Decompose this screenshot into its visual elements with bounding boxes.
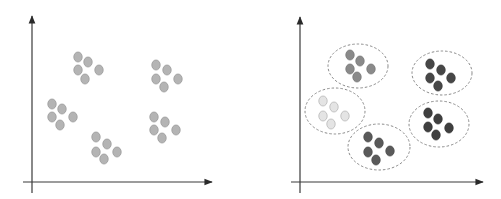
data-point: [48, 99, 56, 109]
data-point: [84, 57, 92, 67]
data-point: [445, 123, 453, 133]
data-point: [356, 56, 364, 66]
clustering-diagram: [0, 0, 501, 199]
data-point: [346, 64, 354, 74]
data-point: [172, 125, 180, 135]
data-point: [113, 147, 121, 157]
left-panel-unclustered: [23, 16, 212, 193]
point-group: [48, 99, 77, 130]
data-point: [152, 74, 160, 84]
point-group: [74, 52, 103, 84]
data-point: [158, 133, 166, 143]
data-point: [95, 65, 103, 75]
cluster: [412, 51, 472, 95]
cluster: [409, 101, 469, 147]
data-point: [69, 112, 77, 122]
data-point: [386, 146, 394, 156]
data-point: [74, 65, 82, 75]
data-point: [161, 117, 169, 127]
data-point: [426, 73, 434, 83]
data-point: [424, 122, 432, 132]
data-point: [56, 120, 64, 130]
data-point: [447, 73, 455, 83]
data-point: [364, 132, 372, 142]
cluster: [305, 88, 365, 134]
data-point: [327, 119, 335, 129]
data-point: [353, 72, 361, 82]
data-point: [92, 132, 100, 142]
data-point: [437, 65, 445, 75]
data-point: [163, 65, 171, 75]
cluster: [348, 124, 410, 170]
data-point: [346, 50, 354, 60]
data-point: [372, 155, 380, 165]
data-point: [160, 82, 168, 92]
data-point: [367, 64, 375, 74]
data-point: [426, 59, 434, 69]
data-point: [364, 147, 372, 157]
data-point: [81, 74, 89, 84]
data-point: [74, 52, 82, 62]
data-point: [432, 130, 440, 140]
data-point: [319, 111, 327, 121]
data-point: [434, 81, 442, 91]
data-point: [92, 147, 100, 157]
point-group: [150, 112, 180, 143]
data-point: [434, 114, 442, 124]
data-point: [424, 108, 432, 118]
data-point: [341, 111, 349, 121]
data-point: [152, 60, 160, 70]
right-panel-clustered: [291, 17, 483, 193]
point-group: [92, 132, 121, 164]
data-point: [150, 112, 158, 122]
data-point: [375, 138, 383, 148]
data-point: [103, 139, 111, 149]
data-point: [150, 125, 158, 135]
data-point: [319, 96, 327, 106]
data-point: [58, 104, 66, 114]
point-group: [152, 60, 182, 92]
data-point: [174, 74, 182, 84]
cluster: [328, 44, 388, 88]
data-point: [48, 112, 56, 122]
data-point: [330, 102, 338, 112]
data-point: [100, 154, 108, 164]
